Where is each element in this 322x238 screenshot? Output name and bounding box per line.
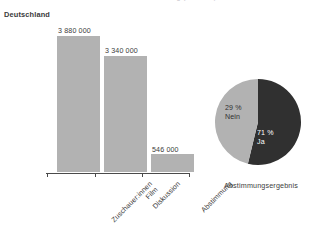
pie-label-nein-percent: 29 % [225,104,242,112]
pie-label-ja: 71 % Ja [257,129,274,146]
bar-diskussion [104,56,147,172]
pie-chart-svg [214,78,302,166]
pie-chart-caption: Abstimmungsergebnis [200,181,322,190]
bar-chart: 3 880 000 3 340 000 546 000 Zuschauer:in… [0,0,200,238]
pie-chart: 29 % Nein 71 % Ja Abstimmungsergebnis [200,0,322,238]
x-axis-tick [47,173,48,177]
chart-figure: Kinofilm und Abstimmung (Schweiz) Deutsc… [0,0,322,238]
bar-zuschauerinnen-film [57,36,100,172]
x-axis-tick [142,173,143,177]
x-axis-tick [95,173,96,177]
pie-label-nein: 29 % Nein [225,104,242,121]
bar-abstimmung [151,154,194,172]
pie-label-ja-percent: 71 % [257,129,274,137]
x-axis-tick [189,173,190,177]
bar-value-label: 546 000 [152,146,179,154]
pie-label-nein-text: Nein [225,113,240,121]
x-axis-line [46,173,190,174]
bar-value-label: 3 340 000 [105,47,138,55]
pie-label-ja-text: Ja [257,138,265,146]
bar-value-label: 3 880 000 [58,27,91,35]
